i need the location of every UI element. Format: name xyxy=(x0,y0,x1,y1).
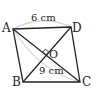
vertex-label-b: B xyxy=(12,75,21,89)
geometry-figure: A D B C O 6 cm 9 cm xyxy=(0,0,96,102)
vertex-label-c: C xyxy=(82,75,91,89)
measurement-ac: 9 cm xyxy=(39,65,64,76)
intersection-label-o: O xyxy=(49,48,58,61)
measurement-ad: 6 cm xyxy=(31,12,56,23)
vertex-label-d: D xyxy=(72,21,82,35)
vertex-label-a: A xyxy=(1,21,11,35)
